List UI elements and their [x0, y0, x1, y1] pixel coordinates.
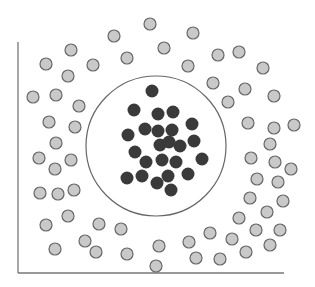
outer-point — [121, 52, 133, 64]
outer-point — [257, 62, 269, 74]
outer-point — [182, 60, 194, 72]
outer-point — [49, 243, 61, 255]
outer-point — [268, 122, 280, 134]
outer-point — [87, 59, 99, 71]
outer-point — [121, 248, 133, 260]
outer-point — [233, 46, 245, 58]
inner-point — [152, 108, 165, 121]
inner-point — [146, 85, 159, 98]
outer-point — [108, 30, 120, 42]
inner-point — [156, 154, 169, 167]
outer-point — [50, 137, 62, 149]
outer-point — [277, 195, 289, 207]
outer-point — [207, 77, 219, 89]
inner-point — [186, 118, 199, 131]
outer-point — [274, 224, 286, 236]
outer-point — [69, 121, 81, 133]
outer-point — [115, 223, 127, 235]
outer-point — [233, 212, 245, 224]
inner-point — [129, 146, 142, 159]
outer-point — [240, 246, 252, 258]
inner-point — [166, 124, 179, 137]
inner-point — [139, 123, 152, 136]
outer-point — [251, 173, 263, 185]
outer-point — [250, 224, 262, 236]
outer-point — [68, 184, 80, 196]
outer-point — [93, 218, 105, 230]
outer-point — [52, 188, 64, 200]
outer-point — [239, 83, 251, 95]
outer-point — [79, 235, 91, 247]
outer-point — [264, 138, 276, 150]
outer-point — [27, 91, 39, 103]
outer-point — [245, 152, 257, 164]
outer-point — [272, 176, 284, 188]
outer-point — [190, 252, 202, 264]
inner-point — [128, 104, 141, 117]
outer-point — [40, 58, 52, 70]
inner-point — [140, 156, 153, 169]
outer-point — [187, 27, 199, 39]
plot-area — [0, 0, 315, 287]
inner-point — [174, 140, 187, 153]
outer-point — [158, 42, 170, 54]
outer-point — [43, 116, 55, 128]
outer-point — [49, 163, 61, 175]
outer-point — [90, 246, 102, 258]
outer-point — [212, 49, 224, 61]
inner-point — [165, 184, 178, 197]
outer-point — [153, 240, 165, 252]
outer-point — [73, 100, 85, 112]
outer-point — [222, 96, 234, 108]
outer-point — [34, 187, 46, 199]
inner-point — [182, 168, 195, 181]
inner-point — [121, 172, 134, 185]
inner-point — [152, 125, 165, 138]
inner-point — [170, 156, 183, 169]
outer-point — [62, 70, 74, 82]
outer-point — [183, 236, 195, 248]
outer-point — [268, 90, 280, 102]
inner-class-points — [121, 85, 209, 197]
inner-point — [151, 177, 164, 190]
outer-point — [33, 152, 45, 164]
outer-point — [40, 219, 52, 231]
outer-point — [214, 253, 226, 265]
outer-point — [264, 239, 276, 251]
scatter-diagram — [0, 0, 315, 287]
inner-point — [162, 170, 175, 183]
inner-point — [167, 106, 180, 119]
outer-point — [204, 227, 216, 239]
outer-point — [244, 192, 256, 204]
outer-point — [144, 18, 156, 30]
outer-point — [62, 210, 74, 222]
inner-point — [188, 135, 201, 148]
inner-point — [122, 129, 135, 142]
outer-point — [285, 163, 297, 175]
outer-point — [50, 89, 62, 101]
inner-point — [196, 153, 209, 166]
outer-point — [269, 156, 281, 168]
outer-point — [261, 206, 273, 218]
outer-point — [65, 154, 77, 166]
outer-point — [150, 260, 162, 272]
outer-point — [288, 119, 300, 131]
outer-point — [226, 233, 238, 245]
outer-point — [242, 117, 254, 129]
outer-point — [65, 44, 77, 56]
inner-point — [136, 170, 149, 183]
